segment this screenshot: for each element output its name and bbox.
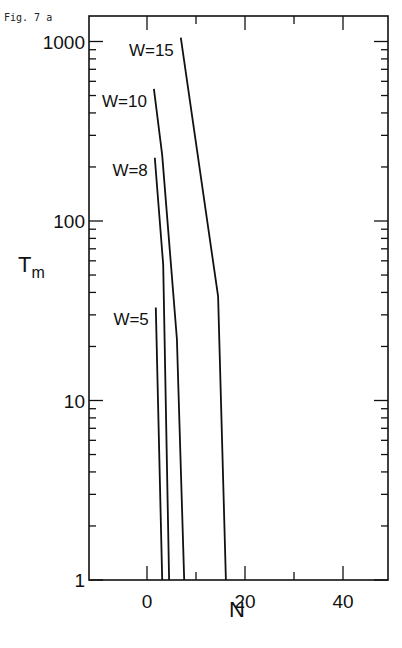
data-series	[154, 38, 226, 580]
series-label: W=15	[129, 41, 174, 60]
series-label: W=10	[102, 92, 147, 111]
y-axis-title-sub: m	[31, 264, 44, 281]
y-tick-label: 1000	[43, 32, 85, 53]
chart: 110100100002040 W=15W=10W=8W=5 N Tm	[0, 0, 402, 648]
series-line-w-5	[156, 307, 162, 580]
y-axis-title: Tm	[18, 252, 45, 281]
series-line-w-15	[181, 38, 226, 580]
y-tick-label: 100	[53, 211, 85, 232]
x-tick-label: 0	[142, 591, 153, 612]
series-label: W=5	[113, 310, 148, 329]
x-axis-title: N	[229, 597, 245, 622]
series-label: W=8	[112, 161, 147, 180]
y-tick-label: 1	[74, 570, 85, 591]
series-line-w-10	[154, 89, 184, 580]
x-tick-label: 40	[332, 591, 353, 612]
y-axis-title-main: T	[18, 252, 31, 277]
y-tick-label: 10	[64, 391, 85, 412]
